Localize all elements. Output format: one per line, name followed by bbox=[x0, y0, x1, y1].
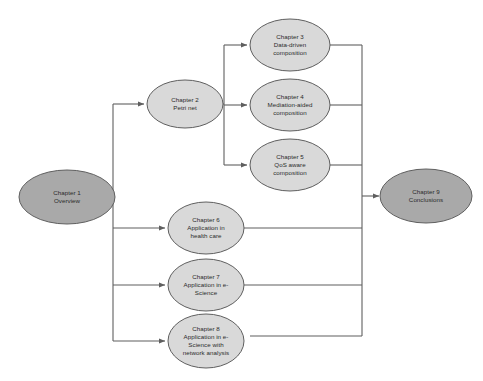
flow-diagram: Chapter 1Overview Chapter 2Petri net Cha… bbox=[0, 0, 483, 381]
node-chapter-4[interactable] bbox=[250, 79, 330, 131]
node-layer bbox=[19, 19, 472, 368]
node-chapter-3[interactable] bbox=[250, 19, 330, 71]
edge-layer bbox=[113, 45, 379, 341]
node-chapter-8[interactable] bbox=[168, 314, 244, 368]
node-chapter-2[interactable] bbox=[147, 80, 223, 128]
node-chapter-7[interactable] bbox=[168, 259, 244, 311]
node-chapter-9[interactable] bbox=[380, 169, 472, 223]
diagram-canvas bbox=[0, 0, 483, 381]
node-chapter-5[interactable] bbox=[250, 139, 330, 191]
node-chapter-6[interactable] bbox=[168, 202, 244, 254]
node-chapter-1[interactable] bbox=[19, 170, 115, 224]
